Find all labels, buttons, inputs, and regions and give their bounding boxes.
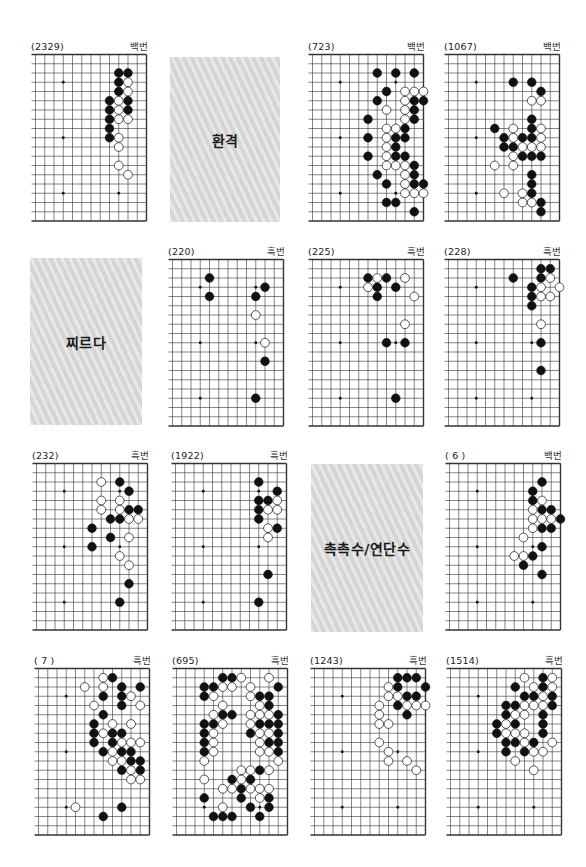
black-stone	[537, 207, 546, 216]
white-stone	[511, 710, 520, 719]
black-stone	[527, 301, 536, 310]
white-stone	[382, 106, 391, 115]
white-stone	[264, 505, 273, 514]
black-stone	[251, 394, 260, 403]
black-stone	[117, 729, 126, 738]
white-stone	[255, 738, 264, 747]
problem-header: (723)백번	[308, 41, 423, 53]
white-stone	[99, 729, 108, 738]
white-stone	[125, 533, 134, 542]
hoshi-point	[477, 695, 480, 698]
go-board[interactable]	[308, 54, 425, 223]
white-stone	[520, 710, 529, 719]
black-stone	[500, 133, 509, 142]
white-stone	[265, 729, 274, 738]
white-stone	[539, 747, 548, 756]
black-stone	[246, 775, 255, 784]
white-stone	[373, 274, 382, 283]
white-stone	[401, 96, 410, 105]
black-stone	[228, 673, 237, 682]
black-stone	[114, 87, 123, 96]
black-stone	[537, 274, 546, 283]
white-stone	[548, 683, 557, 692]
black-stone	[254, 478, 263, 487]
white-stone	[108, 720, 117, 729]
black-stone	[373, 292, 382, 301]
hoshi-point	[339, 192, 342, 195]
black-stone	[538, 524, 547, 533]
white-stone	[125, 515, 134, 524]
white-stone	[246, 692, 255, 701]
white-stone	[97, 478, 106, 487]
board-grid	[172, 668, 289, 837]
go-board[interactable]	[172, 668, 289, 837]
go-board[interactable]	[168, 259, 285, 428]
black-stone	[393, 673, 402, 682]
go-board[interactable]	[444, 259, 561, 428]
go-board[interactable]	[34, 668, 151, 837]
white-stone	[528, 515, 537, 524]
black-stone	[200, 720, 209, 729]
hoshi-point	[394, 341, 397, 344]
white-stone	[261, 338, 270, 347]
hoshi-point	[339, 136, 342, 139]
black-stone	[403, 710, 412, 719]
black-stone	[518, 152, 527, 161]
hoshi-point	[339, 397, 342, 400]
board-grid	[446, 668, 563, 837]
go-board[interactable]	[308, 259, 425, 428]
topic-placard: 촉촉수/연단수	[311, 464, 423, 632]
go-board[interactable]	[31, 54, 148, 223]
problem-number: (695)	[172, 655, 199, 667]
go-board[interactable]	[32, 463, 149, 632]
white-stone	[529, 701, 538, 710]
white-stone	[401, 106, 410, 115]
black-stone	[519, 561, 528, 570]
white-stone	[403, 757, 412, 766]
white-stone	[265, 766, 274, 775]
white-stone	[511, 757, 520, 766]
go-board[interactable]	[446, 668, 563, 837]
problem-number: (228)	[444, 246, 471, 258]
white-stone	[127, 692, 136, 701]
white-stone	[527, 96, 536, 105]
white-stone	[384, 720, 393, 729]
black-stone	[124, 106, 133, 115]
white-stone	[264, 524, 273, 533]
black-stone	[274, 710, 283, 719]
white-stone	[237, 673, 246, 682]
white-stone	[97, 496, 106, 505]
black-stone	[511, 683, 520, 692]
black-stone	[391, 198, 400, 207]
white-stone	[218, 720, 227, 729]
white-stone	[529, 766, 538, 775]
black-stone	[228, 812, 237, 821]
problem-header: (1243)흑번	[310, 655, 425, 667]
black-stone	[114, 78, 123, 87]
problem-number: ( 7 )	[34, 655, 55, 667]
black-stone	[490, 124, 499, 133]
go-board[interactable]	[171, 463, 288, 632]
black-stone	[382, 338, 391, 347]
white-stone	[555, 283, 564, 292]
go-board[interactable]	[310, 668, 427, 837]
go-board[interactable]	[445, 463, 562, 632]
black-stone	[537, 264, 546, 273]
black-stone	[117, 692, 126, 701]
black-stone	[274, 747, 283, 756]
black-stone	[106, 515, 115, 524]
white-stone	[537, 124, 546, 133]
black-stone	[391, 283, 400, 292]
white-stone	[218, 683, 227, 692]
black-stone	[265, 738, 274, 747]
topic-placard: 환격	[170, 57, 280, 222]
go-board[interactable]	[444, 54, 561, 223]
black-stone	[200, 747, 209, 756]
white-stone	[537, 96, 546, 105]
white-stone	[509, 161, 518, 170]
white-stone	[136, 701, 145, 710]
white-stone	[401, 180, 410, 189]
white-stone	[548, 673, 557, 682]
black-stone	[136, 766, 145, 775]
white-stone	[114, 143, 123, 152]
